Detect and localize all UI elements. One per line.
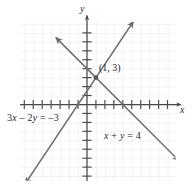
- graph-screenshot: y x 3x – 2y = –3 x + y = 4 (1, 3): [0, 0, 193, 187]
- eq2-operator: +: [109, 130, 120, 141]
- eq2-rhs: = 4: [125, 130, 141, 141]
- intersection-point-label: (1, 3): [99, 62, 121, 73]
- y-axis-label: y: [80, 3, 84, 14]
- eq1-rhs: = –3: [37, 112, 59, 123]
- equation-label-line-2: x + y = 4: [104, 130, 141, 141]
- eq1-operator: – 2: [17, 112, 33, 123]
- coordinate-plane: [0, 0, 193, 187]
- equation-label-line-1: 3x – 2y = –3: [7, 112, 59, 123]
- x-axis-label: x: [180, 104, 184, 115]
- intersection-point-marker: [94, 75, 99, 80]
